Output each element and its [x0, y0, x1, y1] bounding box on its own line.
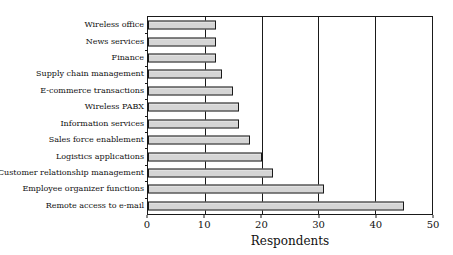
bar — [148, 136, 250, 145]
bar — [148, 70, 222, 79]
category-label: Finance — [112, 54, 144, 62]
category-label: Sales force enablement — [49, 136, 144, 144]
x-axis: 01020304050 — [147, 215, 433, 235]
bar — [148, 185, 324, 194]
x-axis-tick-label: 50 — [427, 219, 440, 231]
x-axis-tick — [318, 215, 319, 218]
bar-row: E-commerce transactions — [148, 83, 432, 99]
bar — [148, 152, 262, 161]
bar — [148, 119, 239, 128]
bar-row: Sales force enablement — [148, 132, 432, 148]
bar-row: Supply chain management — [148, 66, 432, 82]
bar-row: Finance — [148, 50, 432, 66]
x-axis-title: Respondents — [147, 234, 433, 248]
x-axis-tick-label: 30 — [312, 219, 325, 231]
category-label: Remote access to e-mail — [46, 202, 144, 210]
bar — [148, 103, 239, 112]
bar — [148, 21, 216, 30]
bar-chart: Wireless officeNews servicesFinanceSuppl… — [0, 0, 453, 255]
category-label: Wireless office — [84, 21, 144, 29]
bar — [148, 201, 404, 210]
x-axis-tick — [433, 215, 434, 218]
category-label: Wireless PABX — [85, 103, 144, 111]
category-label: News services — [86, 38, 144, 46]
x-axis-tick — [204, 215, 205, 218]
category-label: E-commerce transactions — [40, 87, 144, 95]
bar — [148, 86, 233, 95]
bar-row: Employee organizer functions — [148, 181, 432, 197]
bar-row: Remote access to e-mail — [148, 198, 432, 214]
bar-row: Wireless office — [148, 17, 432, 33]
x-axis-tick-label: 40 — [369, 219, 382, 231]
bar — [148, 54, 216, 63]
bar-row: News services — [148, 33, 432, 49]
bar — [148, 169, 273, 178]
category-label: Information services — [60, 120, 144, 128]
category-label: Customer relationship management — [0, 169, 144, 177]
bar-row: Customer relationship management — [148, 165, 432, 181]
x-axis-tick — [147, 215, 148, 218]
bar — [148, 37, 216, 46]
x-axis-tick — [261, 215, 262, 218]
plot-area: Wireless officeNews servicesFinanceSuppl… — [147, 16, 433, 215]
bar-row: Wireless PABX — [148, 99, 432, 115]
bar-rows: Wireless officeNews servicesFinanceSuppl… — [148, 17, 432, 214]
bar-row: Logistics applications — [148, 148, 432, 164]
x-axis-tick — [375, 215, 376, 218]
category-label: Logistics applications — [56, 153, 144, 161]
category-label: Employee organizer functions — [22, 185, 144, 193]
category-label: Supply chain management — [36, 70, 144, 78]
bar-row: Information services — [148, 116, 432, 132]
x-axis-tick-label: 0 — [144, 219, 150, 231]
x-axis-tick-label: 20 — [255, 219, 268, 231]
x-axis-tick-label: 10 — [198, 219, 211, 231]
